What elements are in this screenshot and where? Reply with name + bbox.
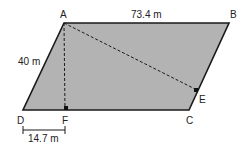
vertex-label-c: C bbox=[186, 115, 193, 126]
parallelogram-diagram: A B C D E F 73.4 m 40 m 14.7 m bbox=[0, 0, 247, 149]
right-angle-marker-e bbox=[194, 88, 198, 92]
measure-df: 14.7 m bbox=[28, 133, 59, 144]
vertex-label-f: F bbox=[62, 115, 68, 126]
right-angle-marker-f bbox=[64, 106, 68, 110]
measure-ab: 73.4 m bbox=[131, 9, 162, 20]
vertex-label-a: A bbox=[60, 9, 67, 20]
vertex-label-e: E bbox=[199, 94, 206, 105]
measure-ad: 40 m bbox=[18, 56, 40, 67]
vertex-label-b: B bbox=[230, 9, 237, 20]
vertex-label-d: D bbox=[17, 115, 24, 126]
